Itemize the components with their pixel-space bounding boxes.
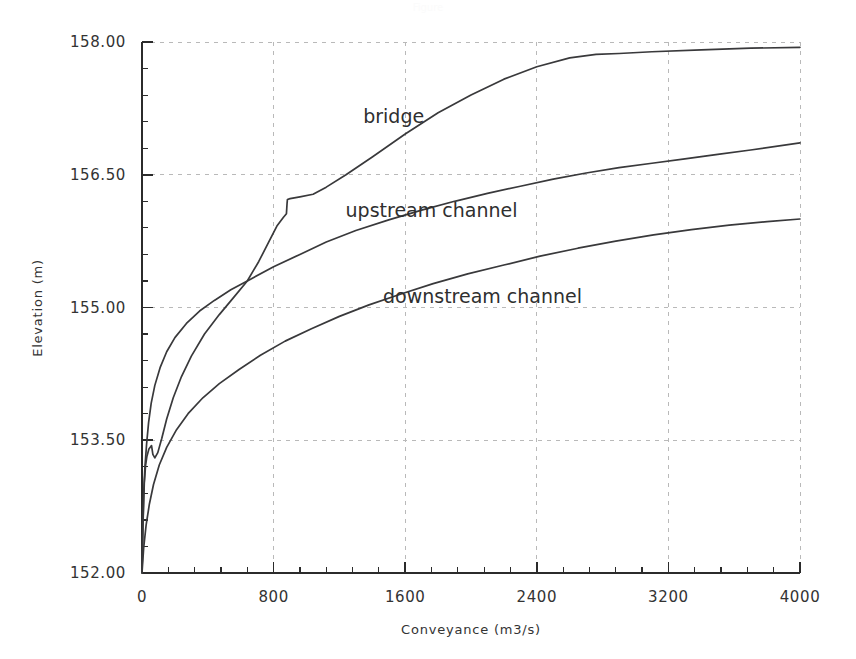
x-tick-label: 1600 [385, 588, 426, 606]
series-label-bridge: bridge [363, 105, 424, 127]
series-label-downstream-channel: downstream channel [383, 285, 582, 307]
curve-bridge [142, 47, 800, 573]
series-annotations-group: bridgeupstream channeldownstream channel [346, 105, 582, 307]
gridlines-group [142, 42, 800, 573]
conveyance-elevation-chart: 152.00153.50155.00156.50158.00 080016002… [0, 0, 856, 659]
x-tick-label: 3200 [648, 588, 689, 606]
data-curves-group [142, 47, 800, 573]
y-tick-label: 152.00 [70, 564, 126, 582]
x-tick-label: 800 [258, 588, 288, 606]
curve-downstream-channel [142, 219, 800, 573]
y-tick-labels-group: 152.00153.50155.00156.50158.00 [70, 33, 126, 582]
chart-figure: Figure 152.00153.50155.00156.50158.00 08… [0, 0, 856, 659]
x-tick-label: 4000 [780, 588, 821, 606]
x-tick-label: 0 [137, 588, 147, 606]
minor-ticks-group [142, 69, 774, 573]
y-tick-label: 153.50 [70, 431, 126, 449]
y-tick-label: 155.00 [70, 299, 126, 317]
x-tick-labels-group: 08001600240032004000 [137, 588, 820, 606]
y-axis-title: Elevation (m) [30, 259, 45, 357]
x-tick-label: 2400 [517, 588, 558, 606]
y-tick-label: 158.00 [70, 33, 126, 51]
y-tick-label: 156.50 [70, 166, 126, 184]
x-axis-title: Conveyance (m3/s) [401, 622, 541, 637]
series-label-upstream-channel: upstream channel [346, 199, 518, 221]
